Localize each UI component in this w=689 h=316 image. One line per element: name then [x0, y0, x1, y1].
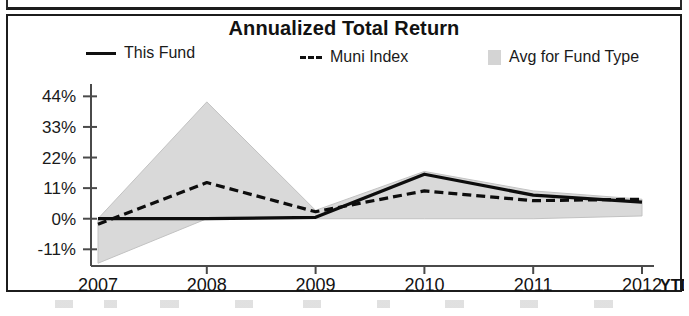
filled-square-icon: [488, 50, 501, 65]
dashed-line-icon: [300, 56, 322, 59]
x-axis-tick-label: 2012: [622, 275, 662, 292]
y-axis-ticks: 44%33%22%11%0%-11%: [38, 87, 97, 259]
legend-item-this-fund: This Fund: [86, 44, 195, 62]
y-axis-tick-label: 11%: [43, 179, 76, 198]
y-axis-tick-label: 44%: [42, 87, 76, 106]
y-axis-tick-label: -11%: [38, 240, 76, 259]
legend-label-this-fund: This Fund: [124, 44, 195, 62]
y-axis-tick-label: 22%: [42, 149, 76, 168]
x-axis-tick-label: 2008: [187, 275, 227, 292]
x-axis-tick-label: 2010: [404, 275, 444, 292]
chart-plot-area: 44%33%22%11%0%-11% 200720082009201020112…: [8, 64, 684, 292]
chart-legend: This Fund Muni Index Avg for Fund Type: [8, 42, 680, 66]
x-axis-ytd-label: YTD: [660, 277, 684, 292]
y-axis-tick-label: 0%: [51, 210, 76, 229]
solid-line-icon: [86, 52, 116, 55]
x-axis-tick-label: 2009: [296, 275, 336, 292]
page-title: Annualized Total Return: [8, 17, 680, 40]
x-axis-ticks: 200720082009201020112012: [78, 265, 662, 292]
x-axis-tick-label: 2011: [514, 275, 553, 292]
y-axis-tick-label: 33%: [42, 118, 76, 137]
scan-artifact: [30, 300, 650, 308]
return-line-chart: 44%33%22%11%0%-11% 200720082009201020112…: [8, 64, 684, 292]
annualized-total-return-card: Annualized Total Return This Fund Muni I…: [6, 14, 682, 292]
avg-for-fund-type-band: [98, 102, 642, 263]
x-axis-tick-label: 2007: [78, 275, 118, 292]
previous-section-border: [6, 0, 682, 10]
